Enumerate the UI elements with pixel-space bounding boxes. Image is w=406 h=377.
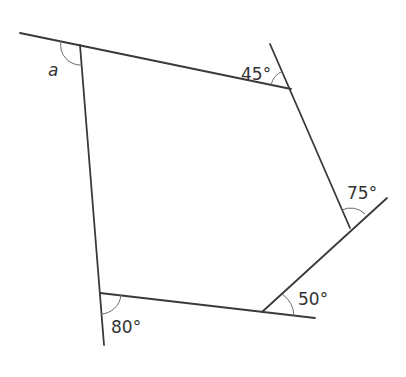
pentagon-diagram: a 45° 75° 50° 80° — [0, 0, 406, 377]
angle-label-80: 80° — [111, 317, 141, 337]
angle-arc-80 — [101, 295, 121, 314]
angle-label-45: 45° — [241, 64, 271, 84]
angle-label-a: a — [48, 60, 58, 80]
angle-arc-50 — [282, 294, 294, 316]
angle-arc-45 — [271, 71, 283, 85]
side-left — [80, 45, 104, 345]
angle-label-50: 50° — [298, 289, 328, 309]
angle-arc-75 — [342, 208, 365, 214]
angle-label-75: 75° — [347, 183, 377, 203]
side-bottom — [100, 293, 315, 318]
